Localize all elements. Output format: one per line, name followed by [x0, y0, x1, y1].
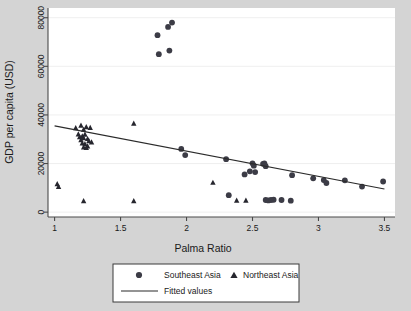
data-point-circle: [279, 197, 285, 203]
data-point-circle: [155, 32, 161, 38]
y-tick-label: 20000: [36, 151, 46, 175]
legend-label-southeast-asia: Southeast Asia: [164, 270, 221, 280]
data-point-circle: [166, 48, 172, 54]
x-tick-label: 2.5: [247, 223, 259, 233]
legend-circle-marker-icon: [136, 272, 142, 278]
data-point-circle: [380, 179, 386, 185]
x-tick-label: 1: [52, 223, 57, 233]
scatter-plot-figure: 020000400006000080000 11.522.533.5 Palma…: [0, 0, 411, 311]
data-point-circle: [226, 192, 232, 198]
data-point-circle: [323, 180, 329, 186]
x-tick-label: 3.5: [379, 223, 391, 233]
y-tick-label: 40000: [36, 103, 46, 127]
data-point-circle: [156, 51, 162, 57]
legend-label-northeast-asia: Northeast Asia: [243, 270, 299, 280]
data-point-circle: [271, 197, 277, 203]
data-point-circle: [242, 172, 248, 178]
legend: Southeast Asia Northeast Asia Fitted val…: [113, 264, 299, 302]
y-axis-title: GDP per capita (USD): [3, 60, 15, 164]
data-point-circle: [289, 172, 295, 178]
data-point-circle: [165, 24, 171, 30]
data-point-circle: [247, 168, 253, 174]
x-axis-title: Palma Ratio: [174, 242, 231, 254]
legend-label-fitted-values: Fitted values: [164, 286, 212, 296]
data-point-circle: [252, 169, 258, 175]
data-point-circle: [169, 20, 175, 26]
plot-area-background: [48, 8, 395, 217]
y-tick-label: 0: [36, 210, 46, 215]
x-tick-label: 2: [184, 223, 189, 233]
y-tick-label: 60000: [36, 54, 46, 78]
x-tick-label: 1.5: [115, 223, 127, 233]
y-tick-label: 80000: [36, 6, 46, 30]
chart-canvas: 020000400006000080000 11.522.533.5 Palma…: [0, 0, 411, 311]
x-tick-label: 3: [316, 223, 321, 233]
data-point-circle: [182, 152, 188, 158]
data-point-circle: [288, 198, 294, 204]
